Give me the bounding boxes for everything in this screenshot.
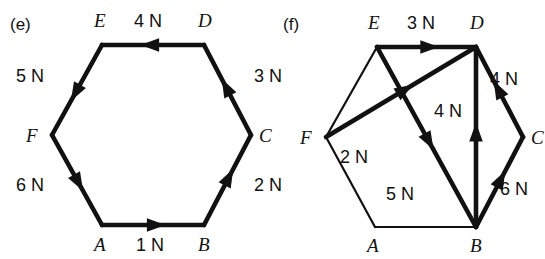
vertex-label-f-D: D — [469, 12, 484, 33]
vertex-label-f-E: E — [367, 12, 380, 33]
force-f-EB: 5 N — [377, 47, 476, 227]
force-e-CD: 3 N — [204, 45, 282, 135]
vertex-label-e-F: F — [25, 125, 38, 146]
force-polygon-figure: (e)1 N2 N3 N4 N5 N6 NABCDEF(f)3 N4 N6 N4… — [0, 0, 545, 259]
diagram-canvas: (e)1 N2 N3 N4 N5 N6 NABCDEF(f)3 N4 N6 N4… — [0, 0, 545, 259]
force-label-e-AB: 1 N — [136, 235, 164, 255]
force-f-DC: 4 N — [476, 47, 523, 137]
arrow-head-e-CD — [222, 79, 237, 99]
arrow-head-f-EB — [419, 130, 434, 150]
force-e-DE: 4 N — [102, 11, 204, 52]
force-e-AB: 1 N — [102, 218, 204, 255]
force-label-e-DE: 4 N — [134, 11, 162, 31]
force-label-f-BD: 4 N — [434, 101, 462, 121]
force-label-e-FA: 6 N — [16, 175, 44, 195]
vertex-label-e-B: B — [198, 234, 210, 255]
vertex-label-f-C: C — [531, 127, 544, 148]
arrow-head-e-EF — [71, 81, 86, 101]
vertex-label-e-D: D — [197, 10, 212, 31]
force-label-f-EB: 5 N — [386, 184, 414, 204]
arrow-head-f-ED — [420, 40, 439, 54]
arrow-head-e-FA — [68, 171, 83, 191]
arrow-head-f-BD — [469, 123, 483, 142]
force-f-BC: 6 N — [476, 137, 528, 227]
arrow-head-e-BC — [219, 169, 234, 189]
force-e-EF: 5 N — [16, 45, 102, 135]
force-e-BC: 2 N — [204, 135, 282, 225]
force-label-e-BC: 2 N — [254, 175, 282, 195]
panel-f: (f)3 N4 N6 N4 N2 N5 NABCDEF — [283, 12, 544, 256]
arrow-head-e-DE — [140, 38, 159, 52]
panel-caption-e: (e) — [10, 15, 31, 34]
vertex-label-f-F: F — [299, 127, 312, 148]
force-label-f-FD: 2 N — [340, 147, 368, 167]
force-label-f-ED: 3 N — [407, 13, 435, 33]
force-f-BD: 4 N — [434, 47, 483, 227]
force-label-e-EF: 5 N — [16, 66, 44, 86]
vertex-label-f-A: A — [365, 235, 379, 256]
force-e-FA: 6 N — [16, 135, 102, 225]
vertex-label-e-C: C — [259, 125, 272, 146]
force-label-f-BC: 6 N — [500, 179, 528, 199]
vertex-label-e-A: A — [92, 234, 106, 255]
force-label-f-DC: 4 N — [490, 69, 518, 89]
panel-e: (e)1 N2 N3 N4 N5 N6 NABCDEF — [10, 10, 282, 255]
panel-caption-f: (f) — [283, 15, 299, 34]
arrow-head-e-AB — [147, 218, 166, 232]
vertex-label-f-B: B — [470, 235, 482, 256]
force-f-ED: 3 N — [377, 13, 476, 54]
force-label-e-CD: 3 N — [254, 66, 282, 86]
vertex-label-e-E: E — [93, 10, 106, 31]
